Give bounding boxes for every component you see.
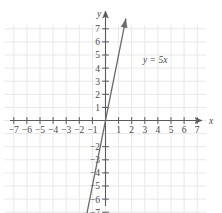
x-tick-label: −7 (9, 125, 19, 135)
x-tick-label: 1 (116, 125, 121, 135)
x-tick-label: −6 (22, 125, 32, 135)
coordinate-plane-svg: −7−6−5−4−3−2−11234567 7654321−2−3−4−5−6−… (0, 0, 222, 213)
x-axis-label: x (208, 116, 214, 126)
x-tick-label: −2 (74, 125, 84, 135)
axes (10, 11, 202, 206)
y-tick-label: −7 (90, 208, 100, 213)
y-axis-tick-labels: 7654321−2−3−4−5−6−7 (90, 24, 100, 213)
graph-figure: −7−6−5−4−3−2−11234567 7654321−2−3−4−5−6−… (0, 0, 222, 213)
x-tick-label: 6 (182, 125, 187, 135)
y-tick-label: −6 (90, 195, 100, 205)
x-tick-label: 5 (169, 125, 174, 135)
y-tick-label: −2 (90, 142, 100, 152)
y-tick-label: 5 (95, 50, 100, 60)
y-tick-label: 1 (95, 103, 100, 113)
x-tick-label: −5 (35, 125, 45, 135)
x-tick-label: 3 (142, 125, 147, 135)
function-equation-label: y = 5x (142, 55, 168, 65)
x-tick-label: −3 (61, 125, 71, 135)
y-tick-label: 4 (95, 64, 100, 74)
y-axis-label: y (96, 9, 102, 19)
x-tick-label: 7 (195, 125, 200, 135)
x-tick-label: −4 (48, 125, 58, 135)
x-tick-label: −1 (87, 125, 97, 135)
x-tick-label: 2 (129, 125, 134, 135)
x-tick-label: 4 (156, 125, 161, 135)
y-tick-label: 7 (95, 24, 100, 34)
y-tick-label: 6 (95, 37, 100, 47)
y-tick-label: 3 (95, 77, 100, 87)
y-tick-label: 2 (95, 90, 100, 100)
